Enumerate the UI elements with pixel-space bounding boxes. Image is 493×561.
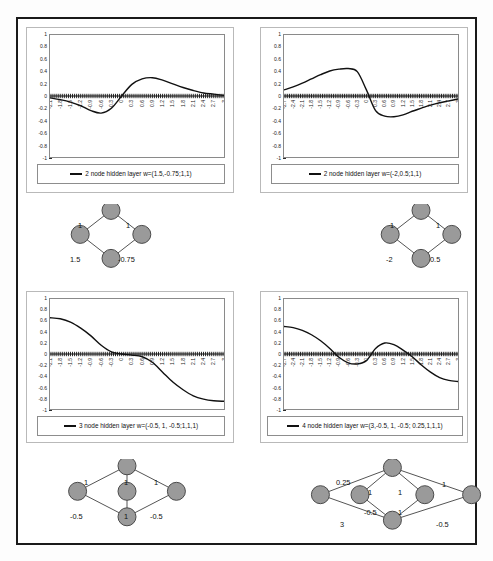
weight-input-lower: -0.5 [436, 521, 449, 528]
y-axis-chart-3: 10.80.60.40.20-0.2-0.4-0.6-0.8-1 [27, 298, 49, 410]
weight-left-lower: -0.5 [364, 509, 377, 516]
weight-input-upper: 1 [442, 481, 446, 488]
y-tick-label: -1 [43, 408, 47, 413]
y-tick-label: -0.4 [38, 374, 47, 379]
x-tick-label: 1.5 [410, 358, 415, 365]
x-tick-label: -0.9 [336, 358, 341, 367]
y-tick-label: 0.4 [40, 69, 47, 74]
weight-bottom-left: 1.5 [70, 256, 80, 263]
x-tick-label: 0.9 [391, 100, 396, 107]
x-tick-label: -2.7 [283, 100, 287, 109]
x-tick-label: 2.1 [191, 100, 196, 107]
chart-card-1: 10.80.60.40.20-0.2-0.4-0.6-0.8-1-2.1-1.8… [26, 27, 234, 193]
legend-label-2: 2 node hidden layer w=(-2,0.5;1,1) [324, 171, 422, 177]
y-tick-label: 0.4 [274, 69, 281, 74]
chart-card-2: 10.80.60.40.20-0.2-0.4-0.6-0.8-1-2.7-2.4… [260, 27, 468, 193]
plot-svg [50, 35, 224, 157]
legend-box-2: 2 node hidden layer w=(-2,0.5;1,1) [271, 164, 459, 184]
legend-box-1: 2 node hidden layer w=(1.5,-0.75;1,1) [37, 164, 225, 184]
x-tick-label: 0.6 [140, 358, 145, 365]
x-tick-label: 3 [456, 358, 460, 361]
y-tick-label: -0.2 [272, 363, 281, 368]
network-diagram-3: 111-0.51-0.5 [62, 459, 192, 544]
legend-line-swatch-1 [70, 173, 82, 175]
y-tick-mark [283, 158, 286, 159]
weight-bottom-left: -0.5 [70, 513, 83, 520]
plot-box-chart-1: -2.1-1.8-1.5-1.2-0.9-0.6-0.300.30.60.91.… [49, 34, 225, 158]
x-tick-label: -1.2 [78, 358, 83, 367]
y-axis-chart-1: 10.80.60.40.20-0.2-0.4-0.6-0.8-1 [27, 34, 49, 158]
hidden-node-right [416, 486, 434, 504]
x-tick-label: 1.8 [181, 100, 186, 107]
y-tick-label: 0 [278, 94, 281, 99]
y-tick-label: -0.6 [38, 131, 47, 136]
x-tick-label: 2.4 [201, 358, 206, 365]
x-tick-label: 2.7 [446, 100, 451, 107]
legend-label-1: 2 node hidden layer w=(1.5,-0.75;1,1) [85, 171, 191, 177]
x-tick-label: 0.3 [373, 358, 378, 365]
figure-frame: 10.80.60.40.20-0.2-0.4-0.6-0.8-1-2.1-1.8… [16, 17, 477, 545]
hidden-node-left [351, 486, 369, 504]
x-tick-label: -1.2 [78, 100, 83, 109]
x-tick-label: 1.2 [160, 100, 165, 107]
y-tick-label: 0 [44, 94, 47, 99]
chart-card-3: 10.80.60.40.20-0.2-0.4-0.6-0.8-1-2.1-1.8… [26, 291, 234, 443]
weight-top-right: 1 [126, 222, 130, 229]
x-tick-label: -1.2 [327, 358, 332, 367]
y-tick-label: 1 [44, 296, 47, 301]
y-tick-label: 0.6 [40, 318, 47, 323]
y-tick-label: 1 [278, 296, 281, 301]
x-tick-label: -2.4 [291, 358, 296, 367]
weight-top-left: 1 [390, 222, 394, 229]
x-tick-label: -1.5 [68, 100, 73, 109]
weight-top-right: 1 [436, 222, 440, 229]
plot-box-chart-4: -2.7-2.4-2.1-1.8-1.5-1.2-0.9-0.6-0.300.3… [283, 298, 459, 410]
legend-line-swatch-2 [309, 173, 321, 175]
x-tick-label: 1.5 [170, 100, 175, 107]
y-tick-label: 0.8 [274, 44, 281, 49]
x-tick-label: 0.9 [391, 358, 396, 365]
legend-line-swatch-3 [64, 425, 76, 427]
y-tick-label: 0.4 [274, 329, 281, 334]
x-tick-label: 0.6 [382, 100, 387, 107]
y-tick-label: 0.4 [40, 329, 47, 334]
x-tick-label: -2.1 [49, 358, 53, 367]
x-tick-label: -0.9 [88, 358, 93, 367]
x-tick-label: -1.2 [327, 100, 332, 109]
y-tick-label: -0.6 [272, 385, 281, 390]
y-tick-label: -0.8 [38, 396, 47, 401]
x-tick-label: 2.7 [211, 100, 216, 107]
x-tick-label: -1.8 [309, 100, 314, 109]
y-tick-label: 0.6 [40, 56, 47, 61]
input-node [463, 486, 481, 504]
x-tick-label: 0.9 [150, 358, 155, 365]
y-tick-label: 0 [44, 352, 47, 357]
x-tick-label: 0 [364, 358, 369, 361]
legend-box-3: 3 node hidden layer w=(-0.5, 1, -0.5;1,1… [37, 416, 225, 436]
y-tick-label: -0.6 [38, 385, 47, 390]
y-tick-label: 0.8 [274, 307, 281, 312]
input-node [412, 249, 430, 267]
y-tick-label: -0.8 [272, 143, 281, 148]
x-tick-label: 3 [222, 100, 226, 103]
plot-svg [50, 299, 224, 409]
x-tick-label: -2.1 [300, 100, 305, 109]
x-tick-label: -1.8 [58, 100, 63, 109]
x-tick-label: 1.5 [170, 358, 175, 365]
x-tick-label: -0.3 [355, 100, 360, 109]
x-tick-label: 1.2 [401, 100, 406, 107]
x-tick-label: 2.4 [437, 358, 442, 365]
weight-upper-left: 1 [368, 489, 372, 496]
weight-top-left: 1 [78, 222, 82, 229]
x-tick-label: -2.1 [49, 100, 53, 109]
x-tick-label: -2.1 [300, 358, 305, 367]
y-axis-chart-2: 10.80.60.40.20-0.2-0.4-0.6-0.8-1 [261, 34, 283, 158]
x-tick-label: -2.7 [283, 358, 287, 367]
y-tick-label: -1 [277, 408, 281, 413]
x-tick-label: 1.2 [401, 358, 406, 365]
y-tick-label: 0.2 [40, 81, 47, 86]
plot-svg [284, 35, 458, 157]
network-diagram-4: 0.25311-0.511-0.5 [306, 459, 486, 544]
x-tick-label: 0.3 [129, 358, 134, 365]
x-tick-label: 2.1 [191, 358, 196, 365]
